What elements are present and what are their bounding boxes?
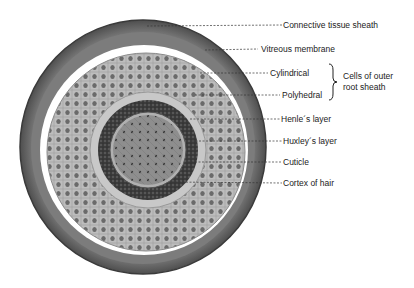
group-label-line2: root sheath — [343, 82, 393, 93]
label-vitreous-membrane: Vitreous membrane — [261, 44, 335, 54]
brace-outer-root-sheath — [329, 64, 337, 100]
hair-follicle-diagram — [0, 0, 414, 288]
label-henles-layer: Henle´s layer — [281, 114, 331, 124]
label-cuticle: Cuticle — [283, 157, 309, 167]
label-connective-tissue-sheath: Connective tissue sheath — [283, 20, 378, 30]
label-polyhedral: Polyhedral — [282, 90, 322, 100]
label-cortex-of-hair: Cortex of hair — [283, 178, 334, 188]
group-label-outer-root-sheath: Cells of outer root sheath — [343, 71, 393, 93]
label-cylindrical: Cylindrical — [270, 68, 309, 78]
group-label-line1: Cells of outer — [343, 71, 393, 82]
label-huxleys-layer: Huxley´s layer — [283, 136, 337, 146]
cortex-region — [113, 115, 183, 185]
